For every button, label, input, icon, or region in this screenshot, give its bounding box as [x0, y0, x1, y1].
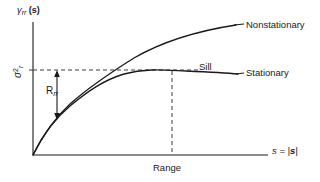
- stationary-curve: [33, 70, 238, 155]
- range-label: Range: [153, 163, 181, 173]
- stationary-label: Stationary: [246, 68, 289, 78]
- gamma-subscript: rr: [22, 9, 26, 16]
- sigma-subscript: r: [17, 66, 24, 68]
- x-axis-label-close: |: [295, 145, 297, 156]
- gamma-argument: (s): [29, 5, 40, 15]
- variance-axis-label: σ2r: [12, 66, 24, 78]
- sill-label: Sill: [199, 62, 212, 72]
- stationary-leader-line: [236, 73, 244, 74]
- covariance-annotation: Rrr: [46, 86, 58, 97]
- sigma-symbol: σ: [12, 72, 23, 78]
- rrr-arrow-head-up: [54, 70, 60, 77]
- y-axis-label: γrr (s): [17, 5, 40, 16]
- variogram-figure: γrr (s) σ2r Rrr Sill Nonstationary Stati…: [0, 0, 320, 182]
- nonstationary-leader-line: [234, 24, 244, 25]
- x-axis-label-plain: s = |: [272, 145, 290, 156]
- x-axis-label: s = |s|: [272, 146, 298, 156]
- covariance-subscript: rr: [53, 89, 58, 98]
- nonstationary-curve: [33, 25, 236, 155]
- nonstationary-label: Nonstationary: [246, 20, 305, 30]
- sigma-superscript: 2: [12, 68, 19, 72]
